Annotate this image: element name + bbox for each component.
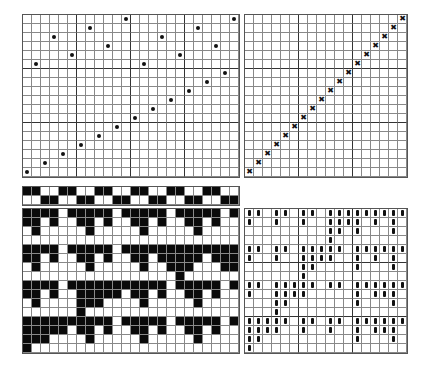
drawdown-cell (104, 209, 113, 218)
drawdown-cell (140, 218, 149, 227)
treadling-cell (344, 114, 353, 123)
threading-cell (104, 78, 113, 87)
profile-cell (362, 227, 371, 236)
strip-cell (50, 196, 59, 205)
threading-cell (158, 42, 167, 51)
threading-cell (221, 15, 230, 24)
treadling-cell (245, 51, 254, 60)
drawdown-cell (158, 218, 167, 227)
threading-cell (41, 123, 50, 132)
x-mark-icon (371, 42, 380, 51)
bar-mark-icon (371, 290, 380, 299)
drawdown-cell (131, 218, 140, 227)
threading-cell (41, 51, 50, 60)
strip-cell (203, 196, 212, 205)
profile-cell (245, 308, 254, 317)
drawdown-cell (113, 308, 122, 317)
threading-cell (140, 123, 149, 132)
treadling-cell (254, 114, 263, 123)
threading-cell (23, 60, 32, 69)
drawdown-cell (149, 272, 158, 281)
threading-cell (194, 114, 203, 123)
profile-cell (326, 335, 335, 344)
threading-cell (86, 42, 95, 51)
threading-cell (77, 105, 86, 114)
profile-cell (326, 290, 335, 299)
profile-cell (335, 272, 344, 281)
drawdown-cell (95, 326, 104, 335)
drawdown-cell (122, 335, 131, 344)
treadling-cell (290, 60, 299, 69)
drawdown-cell (149, 335, 158, 344)
threading-cell (230, 132, 239, 141)
bar-mark-icon (299, 317, 308, 326)
drawdown-cell (77, 317, 86, 326)
drawdown-cell (41, 335, 50, 344)
threading-cell (230, 69, 239, 78)
threading-cell (167, 141, 176, 150)
threading-cell (41, 24, 50, 33)
treadling-cell (362, 114, 371, 123)
treadling-cell (299, 69, 308, 78)
drawdown-cell (23, 218, 32, 227)
drawdown-cell (167, 209, 176, 218)
treadling-cell (290, 78, 299, 87)
treadling-cell (263, 87, 272, 96)
treadling-cell (299, 132, 308, 141)
bar-mark-icon (326, 317, 335, 326)
drawdown-cell (41, 254, 50, 263)
drawdown-cell (149, 290, 158, 299)
dot-mark-icon (104, 42, 113, 51)
threading-cell (122, 141, 131, 150)
threading-cell (149, 168, 158, 177)
threading-cell (158, 132, 167, 141)
treadling-cell (245, 96, 254, 105)
threading-cell (167, 159, 176, 168)
profile-cell (371, 299, 380, 308)
threading-cell (59, 159, 68, 168)
threading-cell (194, 15, 203, 24)
drawdown-cell (212, 326, 221, 335)
treadling-cell (299, 60, 308, 69)
drawdown-cell (140, 245, 149, 254)
threading-cell (131, 123, 140, 132)
profile-cell (263, 218, 272, 227)
bar-mark-icon (317, 245, 326, 254)
threading-cell (122, 69, 131, 78)
bar-mark-icon (272, 245, 281, 254)
drawdown-cell (113, 227, 122, 236)
treadling-cell (290, 69, 299, 78)
threading-cell (221, 159, 230, 168)
treadling-cell (380, 168, 389, 177)
profile-cell (344, 263, 353, 272)
drawdown-cell (140, 281, 149, 290)
treadling-cell (272, 123, 281, 132)
drawdown-cell (122, 218, 131, 227)
bar-mark-icon (272, 254, 281, 263)
threading-cell (104, 15, 113, 24)
threading-cell (185, 168, 194, 177)
treadling-cell (389, 168, 398, 177)
x-mark-icon (245, 168, 254, 177)
threading-cell (185, 33, 194, 42)
treadling-cell (281, 141, 290, 150)
bar-mark-icon (371, 326, 380, 335)
treadling-cell (245, 78, 254, 87)
treadling-cell (299, 123, 308, 132)
threading-cell (176, 78, 185, 87)
drawdown-cell (95, 272, 104, 281)
drawdown-cell (122, 344, 131, 353)
drawdown-cell (203, 281, 212, 290)
drawdown-cell (23, 317, 32, 326)
drawdown-cell (59, 281, 68, 290)
treadling-cell (263, 105, 272, 114)
drawdown-cell (113, 317, 122, 326)
profile-cell (398, 227, 407, 236)
drawdown-cell (113, 218, 122, 227)
threading-cell (113, 159, 122, 168)
treadling-cell (353, 114, 362, 123)
threading-cell (167, 123, 176, 132)
treadling-cell (281, 78, 290, 87)
threading-cell (41, 105, 50, 114)
drawdown-cell (158, 245, 167, 254)
